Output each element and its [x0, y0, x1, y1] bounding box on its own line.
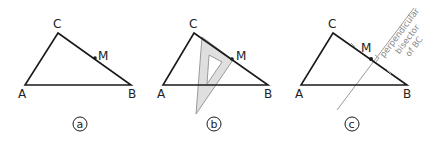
label-a: A: [157, 87, 166, 101]
set-square: [196, 37, 233, 114]
label-m: M: [98, 49, 108, 63]
label-b: B: [403, 87, 411, 101]
midpoint-m: [93, 56, 97, 60]
diagram-svg: C A B M a C A B M b C A B M perpendicula…: [0, 0, 438, 141]
figure-b: C A B M b: [157, 17, 272, 131]
caption-c: c: [349, 118, 355, 131]
label-m: M: [361, 41, 371, 55]
label-m: M: [236, 49, 246, 63]
midpoint-m: [369, 57, 373, 61]
label-c: C: [53, 17, 61, 31]
bisector-label: perpendicular bisector of BC: [378, 6, 438, 72]
caption-a: a: [77, 118, 84, 131]
label-c: C: [328, 17, 336, 31]
label-b: B: [264, 87, 272, 101]
triangle-abc: [25, 33, 131, 85]
label-a: A: [18, 87, 27, 101]
figure-a: C A B M a: [18, 17, 136, 131]
figure-c: C A B M perpendicular bisector of BC c: [295, 6, 437, 131]
label-c: C: [189, 17, 197, 31]
caption-b: b: [211, 118, 218, 131]
label-b: B: [128, 87, 136, 101]
midpoint-m: [230, 57, 234, 61]
diagram-stage: C A B M a C A B M b C A B M perpendicula…: [0, 0, 438, 141]
label-a: A: [295, 87, 304, 101]
